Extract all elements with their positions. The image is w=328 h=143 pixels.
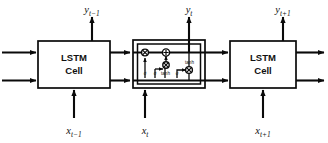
forget-gate-sigma-label: σ: [144, 70, 147, 76]
label-y-current: yt: [185, 4, 194, 18]
cell-previous-label-line1: LSTM: [61, 52, 87, 63]
input-gate-sigma-label: σ: [154, 70, 157, 76]
label-x-previous: xt−1: [65, 125, 81, 139]
candidate-tanh-label: tanh: [161, 71, 170, 76]
lstm-diagram: LSTM Cell xt−1 yt−1 σ σ: [0, 0, 328, 143]
left-to-middle-wires: [110, 53, 130, 81]
label-x-next: xt+1: [254, 125, 270, 139]
label-x-current: xt: [141, 125, 150, 139]
middle-to-right-wires: [205, 53, 228, 81]
right-output-wires: [296, 53, 324, 81]
cell-next-label-line2: Cell: [254, 65, 271, 76]
lstm-diagram-canvas: LSTM Cell xt−1 yt−1 σ σ: [0, 0, 328, 143]
left-input-wires: [2, 53, 36, 81]
label-y-previous: yt−1: [83, 4, 99, 18]
cell-state-add-group: [162, 49, 169, 56]
state-tanh-label: tanh: [185, 60, 194, 65]
cell-next-label-line1: LSTM: [250, 52, 276, 63]
cell-previous-label-line2: Cell: [65, 65, 82, 76]
label-y-next: yt+1: [274, 4, 290, 18]
